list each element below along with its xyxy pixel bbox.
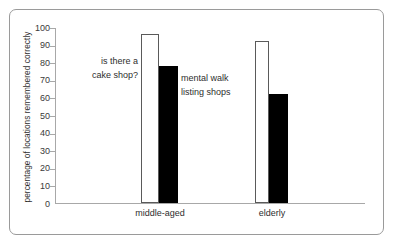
y-tickmark-40 [50,134,55,135]
y-tickmark-20 [50,169,55,170]
y-tick-100: 100 [0,24,50,33]
y-tickmark-70 [50,81,55,82]
y-tickmark-100 [50,28,55,29]
y-tick-70: 70 [0,76,50,85]
y-axis-line [55,28,56,204]
bar-middle-aged-cake-shop [141,34,159,203]
y-tick-label-10: 10 [28,182,50,191]
y-tick-label-80: 80 [28,59,50,68]
y-tick-label-100: 100 [28,24,50,33]
y-tick-label-40: 40 [28,129,50,138]
y-tick-50: 50 [0,112,50,121]
y-tick-0: 0 [0,200,50,209]
x-tick-label-middle-aged: middle-aged [116,208,204,218]
annotation-cake-shop-line-1: is there a [64,55,138,69]
y-tick-label-30: 30 [28,147,50,156]
y-tick-80: 80 [0,59,50,68]
plot-area: percentage of locations remembered corre… [0,0,395,245]
y-tickmark-60 [50,98,55,99]
y-tick-label-90: 90 [28,41,50,50]
y-tick-label-0: 0 [28,200,50,209]
annotation-mental-walk-line-1: mental walk [181,72,271,86]
y-tick-90: 90 [0,41,50,50]
x-tick-label-elderly: elderly [228,208,316,218]
annotation-cake-shop: is there a cake shop? [64,55,138,82]
y-tick-40: 40 [0,129,50,138]
y-tickmark-30 [50,151,55,152]
y-tickmark-50 [50,116,55,117]
chart-figure: percentage of locations remembered corre… [0,0,395,245]
y-tick-label-60: 60 [28,94,50,103]
annotation-mental-walk-line-2: listing shops [181,86,271,100]
x-axis-line [55,203,365,204]
annotation-cake-shop-line-2: cake shop? [64,69,138,83]
y-tickmark-10 [50,186,55,187]
bar-elderly-cake-shop [255,41,269,203]
y-tick-label-50: 50 [28,112,50,121]
y-tick-20: 20 [0,164,50,173]
bar-middle-aged-mental-walk [159,66,178,203]
annotation-mental-walk: mental walk listing shops [181,72,271,99]
y-tick-60: 60 [0,94,50,103]
bar-elderly-mental-walk [269,94,288,203]
y-tick-label-70: 70 [28,76,50,85]
y-tickmark-80 [50,63,55,64]
y-tick-30: 30 [0,147,50,156]
y-tick-label-20: 20 [28,164,50,173]
y-tick-10: 10 [0,182,50,191]
y-tickmark-90 [50,46,55,47]
